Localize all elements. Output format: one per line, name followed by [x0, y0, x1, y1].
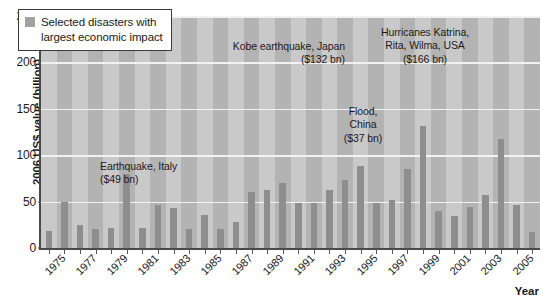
x-tick-label-1991: 1991: [292, 252, 317, 277]
x-tick-label-1999: 1999: [416, 252, 441, 277]
x-tick-mark-1977: [80, 249, 81, 254]
x-tick-mark-2006: [532, 249, 533, 254]
x-tick-label-1975: 1975: [42, 252, 67, 277]
bar-1982[interactable]: [155, 205, 162, 248]
bar-1978[interactable]: [92, 229, 99, 248]
legend-swatch-selected-disasters: [25, 17, 35, 27]
disaster-economic-impact-chart: 2006 US$ value (billion) 050100150200250…: [0, 0, 543, 306]
x-tick-mark-1990: [283, 249, 284, 254]
bar-1991[interactable]: [295, 203, 302, 248]
bar-1975[interactable]: [46, 231, 53, 248]
x-tick-mark-2004: [501, 249, 502, 254]
x-tick-mark-1996: [376, 249, 377, 254]
bar-2006[interactable]: [529, 232, 536, 248]
x-tick-mark-1987: [236, 249, 237, 254]
x-tick-label-1995: 1995: [354, 252, 379, 277]
bar-1998[interactable]: [404, 169, 411, 248]
bar-1992[interactable]: [311, 203, 318, 248]
bar-1981[interactable]: [139, 228, 146, 248]
x-tick-mark-1979: [111, 249, 112, 254]
x-tick-label-2003: 2003: [479, 252, 504, 277]
x-tick-mark-1980: [127, 249, 128, 254]
bar-1990[interactable]: [279, 183, 286, 248]
bar-2001[interactable]: [451, 216, 458, 248]
bar-2000[interactable]: [435, 211, 442, 248]
x-tick-label-2001: 2001: [447, 252, 472, 277]
bar-1993[interactable]: [326, 190, 333, 248]
x-axis-title: Year: [515, 285, 539, 297]
x-tick-mark-2002: [470, 249, 471, 254]
x-tick-mark-1992: [314, 249, 315, 254]
x-tick-mark-1976: [64, 249, 65, 254]
gridline: [41, 202, 540, 204]
x-tick-mark-1998: [407, 249, 408, 254]
y-tick-label-0: 0: [8, 241, 36, 255]
x-tick-mark-1993: [329, 249, 330, 254]
annotation-flood-china: Flood, China ($37 bn): [325, 105, 401, 145]
bar-1986[interactable]: [217, 229, 224, 248]
annotation-kobe-earthquake-japan: Kobe earthquake, Japan ($132 bn): [185, 40, 345, 67]
bar-1984[interactable]: [186, 229, 193, 248]
bar-1994[interactable]: [342, 180, 349, 248]
annotation-earthquake-italy: Earthquake, Italy ($49 bn): [100, 160, 177, 187]
bar-1983[interactable]: [170, 208, 177, 248]
x-tick-mark-1988: [252, 249, 253, 254]
chart-legend: Selected disasters with largest economic…: [18, 9, 172, 51]
x-tick-mark-1997: [392, 249, 393, 254]
x-tick-mark-2000: [439, 249, 440, 254]
x-tick-mark-1991: [298, 249, 299, 254]
x-tick-mark-1986: [220, 249, 221, 254]
x-tick-mark-1978: [96, 249, 97, 254]
x-tick-mark-1984: [189, 249, 190, 254]
x-tick-label-1981: 1981: [136, 252, 161, 277]
x-tick-mark-1975: [49, 249, 50, 254]
x-tick-mark-1983: [174, 249, 175, 254]
bar-1985[interactable]: [201, 215, 208, 248]
gridline: [41, 155, 540, 157]
x-tick-label-1979: 1979: [104, 252, 129, 277]
x-tick-label-1985: 1985: [198, 252, 223, 277]
bar-1995[interactable]: [357, 166, 364, 248]
bar-1997[interactable]: [389, 200, 396, 248]
bar-1987[interactable]: [233, 222, 240, 248]
x-tick-label-1983: 1983: [167, 252, 192, 277]
x-tick-label-1989: 1989: [260, 252, 285, 277]
x-tick-mark-1982: [158, 249, 159, 254]
bar-1988[interactable]: [248, 192, 255, 248]
x-tick-mark-1985: [205, 249, 206, 254]
bar-1996[interactable]: [373, 203, 380, 248]
bar-1976[interactable]: [61, 202, 68, 248]
y-tick-label-150: 150: [8, 102, 36, 116]
x-tick-mark-1995: [361, 249, 362, 254]
bar-1989[interactable]: [264, 190, 271, 248]
bar-2005[interactable]: [513, 205, 520, 248]
bar-1977[interactable]: [77, 225, 84, 248]
x-tick-mark-2005: [517, 249, 518, 254]
y-tick-label-100: 100: [8, 148, 36, 162]
x-tick-mark-1999: [423, 249, 424, 254]
x-tick-mark-1981: [142, 249, 143, 254]
bar-2004[interactable]: [498, 139, 505, 249]
x-tick-label-2005: 2005: [510, 252, 535, 277]
legend-label-selected-disasters: Selected disasters with largest economic…: [41, 15, 163, 45]
x-tick-mark-1989: [267, 249, 268, 254]
gridline: [41, 109, 540, 111]
x-tick-mark-2003: [485, 249, 486, 254]
annotation-hurricanes-katrina-rita-wilma-usa: Hurricanes Katrina, Rita, Wilma, USA ($1…: [350, 26, 500, 66]
plot-stripe: [524, 16, 540, 248]
x-tick-label-1977: 1977: [73, 252, 98, 277]
bar-1999[interactable]: [420, 126, 427, 248]
x-tick-label-1997: 1997: [385, 252, 410, 277]
x-tick-mark-2001: [454, 249, 455, 254]
x-axis-line: [39, 248, 540, 250]
bar-1979[interactable]: [108, 228, 115, 248]
bar-2002[interactable]: [467, 207, 474, 248]
x-tick-label-1993: 1993: [323, 252, 348, 277]
y-tick-label-50: 50: [8, 195, 36, 209]
y-tick-label-200: 200: [8, 55, 36, 69]
x-tick-mark-1994: [345, 249, 346, 254]
x-tick-label-1987: 1987: [229, 252, 254, 277]
bar-2003[interactable]: [482, 195, 489, 248]
